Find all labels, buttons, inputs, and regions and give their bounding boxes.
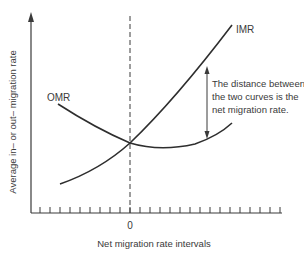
net-migration-arrow	[205, 66, 210, 139]
annotation-line-1: The distance between	[212, 78, 304, 89]
annotation-text: The distance between the two curves is t…	[212, 78, 304, 115]
arrow-up-icon	[205, 66, 210, 74]
x-axis	[31, 207, 282, 213]
omr-label: OMR	[47, 92, 70, 103]
y-axis	[28, 12, 34, 213]
imr-curve	[60, 25, 232, 184]
y-axis-label: Average in– or out– migration rate	[7, 50, 18, 193]
zero-tick-label: 0	[127, 220, 133, 231]
y-axis-arrow-icon	[28, 12, 34, 22]
migration-rate-diagram: IMR OMR 0 Net migration rate intervals A…	[0, 0, 304, 254]
x-axis-ticks	[40, 207, 280, 213]
x-axis-label: Net migration rate intervals	[97, 238, 211, 249]
omr-curve	[58, 104, 232, 148]
imr-label: IMR	[236, 24, 254, 35]
annotation-line-2: the two curves is the	[212, 91, 299, 102]
annotation-line-3: net migration rate.	[212, 104, 289, 115]
